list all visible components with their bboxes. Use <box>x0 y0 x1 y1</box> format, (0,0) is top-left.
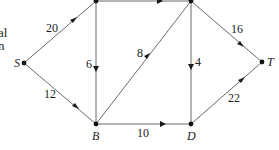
arrow-head-icon <box>160 121 166 127</box>
edge-a-b: 6 <box>86 1 99 124</box>
node-t <box>260 60 265 65</box>
arrow-head-icon <box>157 0 163 4</box>
edge-a-c <box>96 0 191 4</box>
edge-weight-a-b: 6 <box>86 57 92 71</box>
arrow-head-icon <box>93 66 99 72</box>
node-d <box>189 122 194 127</box>
flow-network-diagram: al n 20 12 6 8 4 16 10 <box>0 0 279 150</box>
node-s <box>22 61 27 66</box>
node-label-b: B <box>92 129 100 143</box>
arrow-head-icon <box>188 64 194 70</box>
edge-weight-b-c: 8 <box>137 46 143 60</box>
edge-weight-d-t: 22 <box>228 91 240 105</box>
edge-c-t: 16 <box>191 1 262 62</box>
edge-s-a: 20 <box>24 1 96 63</box>
edge-weight-s-b: 12 <box>44 87 56 101</box>
edge-b-d: 10 <box>96 121 191 140</box>
edge-weight-s-a: 20 <box>46 21 58 35</box>
edge-c-d: 4 <box>188 1 201 124</box>
edge-weight-b-d: 10 <box>137 126 149 140</box>
edge-s-b: 12 <box>24 63 96 124</box>
node-b <box>94 122 99 127</box>
edge-b-c: 8 <box>96 1 191 124</box>
node-label-d: D <box>186 129 196 143</box>
node-label-t: T <box>267 55 275 69</box>
edge-d-t: 22 <box>191 62 262 124</box>
edge-weight-c-d: 4 <box>195 55 201 69</box>
node-label-s: S <box>14 56 20 70</box>
cut-text-2: n <box>0 38 5 53</box>
arrow-head-icon <box>72 103 79 109</box>
edge-weight-c-t: 16 <box>231 22 243 36</box>
